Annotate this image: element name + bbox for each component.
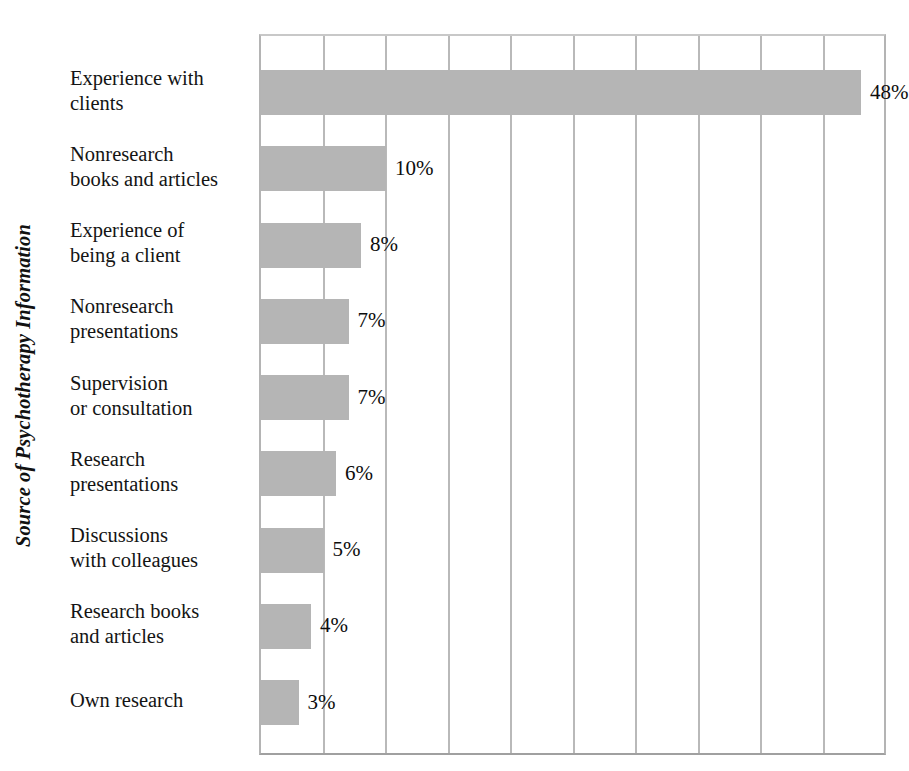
plot-area: 48%10%8%7%7%6%5%4%3% (259, 34, 886, 755)
gridline (573, 36, 575, 753)
gridline (760, 36, 762, 753)
bar (261, 528, 324, 573)
category-label: Experience of being a client (70, 218, 260, 268)
category-label-list: Experience with clientsNonresearch books… (70, 34, 255, 755)
bar (261, 680, 299, 725)
category-label: Nonresearch books and articles (70, 142, 260, 192)
bar (261, 604, 311, 649)
bar-value-label: 48% (870, 82, 909, 103)
bar (261, 223, 361, 268)
bar-value-label: 8% (370, 234, 398, 255)
gridline (635, 36, 637, 753)
bar (261, 451, 336, 496)
category-label: Research books and articles (70, 599, 260, 649)
bar-value-label: 4% (320, 615, 348, 636)
gridline (698, 36, 700, 753)
bar (261, 146, 386, 191)
bar-value-label: 5% (333, 539, 361, 560)
category-label: Supervision or consultation (70, 371, 260, 421)
gridline (448, 36, 450, 753)
bar (261, 375, 349, 420)
bar-value-label: 3% (308, 692, 336, 713)
category-label: Discussions with colleagues (70, 523, 260, 573)
bar-value-label: 7% (358, 387, 386, 408)
bar (261, 299, 349, 344)
category-label: Own research (70, 688, 260, 713)
bar-value-label: 10% (395, 158, 434, 179)
gridline (823, 36, 825, 753)
bar-value-label: 7% (358, 310, 386, 331)
y-axis-title: Source of Psychotherapy Information (0, 0, 46, 771)
bar-value-label: 6% (345, 463, 373, 484)
category-label: Research presentations (70, 447, 260, 497)
gridline (510, 36, 512, 753)
bar (261, 70, 861, 115)
category-label: Experience with clients (70, 66, 260, 116)
category-label: Nonresearch presentations (70, 294, 260, 344)
